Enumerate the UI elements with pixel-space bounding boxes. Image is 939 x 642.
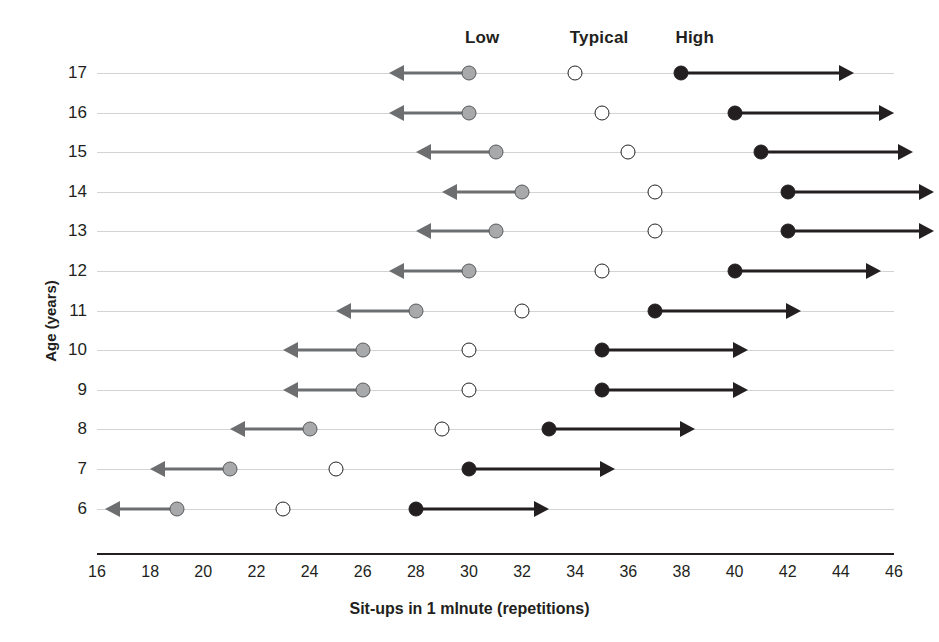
high-arrow-head-age-14 [919, 184, 934, 200]
y-tick-label-age-14: 14 [47, 182, 87, 202]
gridline-age-15 [97, 152, 894, 153]
column-header-high: High [675, 28, 714, 48]
low-arrow-head-age-15 [416, 144, 431, 160]
gridline-age-7 [97, 469, 894, 470]
typical-marker-age-15 [621, 145, 636, 160]
typical-marker-age-12 [594, 264, 609, 279]
low-marker-age-11 [408, 303, 423, 318]
high-arrow-head-age-13 [919, 223, 934, 239]
low-arrow-head-age-12 [389, 263, 404, 279]
low-marker-age-9 [355, 382, 370, 397]
x-tick-label-26: 26 [354, 563, 372, 581]
typical-marker-age-7 [329, 462, 344, 477]
x-tick-label-44: 44 [832, 563, 850, 581]
high-arrow-shaft-age-6 [416, 507, 539, 510]
high-arrow-head-age-9 [733, 382, 748, 398]
high-arrow-shaft-age-13 [788, 230, 924, 233]
gridline-age-17 [97, 73, 894, 74]
low-marker-age-8 [302, 422, 317, 437]
high-arrow-head-age-12 [866, 263, 881, 279]
high-marker-age-7 [461, 462, 476, 477]
high-arrow-shaft-age-9 [602, 388, 738, 391]
high-marker-age-13 [780, 224, 795, 239]
low-arrow-head-age-17 [389, 65, 404, 81]
y-tick-label-age-8: 8 [47, 419, 87, 439]
low-arrow-head-age-14 [442, 184, 457, 200]
high-arrow-head-age-11 [786, 303, 801, 319]
gridline-age-8 [97, 429, 894, 430]
y-tick-label-age-17: 17 [47, 63, 87, 83]
high-marker-age-9 [594, 382, 609, 397]
high-arrow-shaft-age-16 [735, 111, 884, 114]
high-arrow-shaft-age-7 [469, 468, 605, 471]
high-arrow-head-age-6 [534, 501, 549, 517]
gridline-age-12 [97, 271, 894, 272]
y-tick-label-age-6: 6 [47, 499, 87, 519]
y-tick-label-age-15: 15 [47, 142, 87, 162]
high-arrow-head-age-15 [898, 144, 913, 160]
low-arrow-head-age-8 [230, 421, 245, 437]
typical-marker-age-6 [275, 501, 290, 516]
low-marker-age-7 [222, 462, 237, 477]
low-arrow-shaft-age-10 [293, 349, 363, 352]
low-arrow-shaft-age-16 [399, 111, 469, 114]
x-tick-label-18: 18 [141, 563, 159, 581]
typical-marker-age-14 [647, 184, 662, 199]
typical-marker-age-8 [435, 422, 450, 437]
high-marker-age-8 [541, 422, 556, 437]
typical-marker-age-11 [515, 303, 530, 318]
typical-marker-age-16 [594, 105, 609, 120]
high-arrow-head-age-17 [839, 65, 854, 81]
low-arrow-shaft-age-17 [399, 72, 469, 75]
typical-marker-age-9 [461, 382, 476, 397]
x-axis-line [97, 553, 894, 555]
typical-marker-age-10 [461, 343, 476, 358]
gridline-age-6 [97, 509, 894, 510]
high-arrow-head-age-16 [879, 105, 894, 121]
high-marker-age-14 [780, 184, 795, 199]
x-tick-label-38: 38 [673, 563, 691, 581]
gridline-age-13 [97, 231, 894, 232]
high-marker-age-12 [727, 264, 742, 279]
low-arrow-shaft-age-11 [346, 309, 416, 312]
low-marker-age-6 [169, 501, 184, 516]
low-arrow-shaft-age-12 [399, 270, 469, 273]
low-marker-age-14 [515, 184, 530, 199]
low-arrow-head-age-16 [389, 105, 404, 121]
x-axis-title: Sit-ups in 1 mlnute (repetitions) [0, 600, 939, 618]
low-marker-age-10 [355, 343, 370, 358]
low-marker-age-13 [488, 224, 503, 239]
low-arrow-head-age-7 [150, 461, 165, 477]
high-marker-age-16 [727, 105, 742, 120]
high-arrow-shaft-age-11 [655, 309, 791, 312]
gridline-age-16 [97, 113, 894, 114]
gridline-age-9 [97, 390, 894, 391]
y-tick-label-age-12: 12 [47, 261, 87, 281]
high-arrow-head-age-8 [680, 421, 695, 437]
low-arrow-head-age-13 [416, 223, 431, 239]
typical-marker-age-13 [647, 224, 662, 239]
y-tick-label-age-13: 13 [47, 221, 87, 241]
gridline-age-10 [97, 350, 894, 351]
gridline-age-14 [97, 192, 894, 193]
low-arrow-shaft-age-13 [426, 230, 496, 233]
y-tick-label-age-16: 16 [47, 103, 87, 123]
typical-marker-age-17 [568, 66, 583, 81]
y-tick-label-age-9: 9 [47, 380, 87, 400]
low-arrow-head-age-11 [336, 303, 351, 319]
sit-ups-fitness-chart: Age (years) LowTypicalHigh 1716151413121… [0, 0, 939, 642]
high-arrow-shaft-age-15 [761, 151, 902, 154]
high-arrow-shaft-age-10 [602, 349, 738, 352]
high-arrow-head-age-7 [600, 461, 615, 477]
low-arrow-shaft-age-6 [115, 507, 177, 510]
column-header-low: Low [465, 28, 500, 48]
high-arrow-shaft-age-14 [788, 190, 924, 193]
x-tick-label-28: 28 [407, 563, 425, 581]
x-tick-label-22: 22 [247, 563, 265, 581]
high-arrow-head-age-10 [733, 342, 748, 358]
column-header-typical: Typical [570, 28, 629, 48]
x-tick-label-42: 42 [779, 563, 797, 581]
high-arrow-shaft-age-8 [549, 428, 685, 431]
low-arrow-shaft-age-9 [293, 388, 363, 391]
low-marker-age-17 [461, 66, 476, 81]
